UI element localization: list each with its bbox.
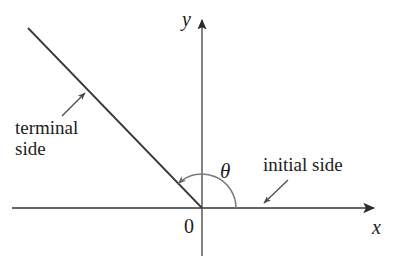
terminal-side-leader-line — [62, 93, 85, 116]
terminal-side-label: terminal side — [15, 117, 78, 160]
angle-standard-position-figure: y x 0 θ terminal side initial side — [0, 0, 398, 257]
origin-label: 0 — [184, 215, 194, 237]
theta-angle-label: θ — [220, 160, 230, 184]
y-axis-label: y — [182, 8, 191, 30]
terminal-side-label-line2: side — [15, 138, 78, 159]
x-axis-label: x — [372, 216, 381, 238]
initial-side-label: initial side — [263, 154, 343, 175]
terminal-side-label-line1: terminal — [15, 117, 78, 138]
initial-side-leader-line — [264, 180, 288, 203]
